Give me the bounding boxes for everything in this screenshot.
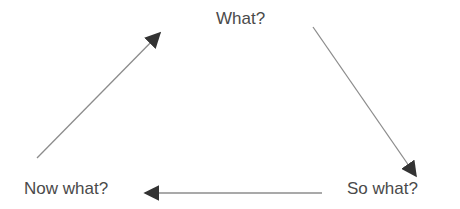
reflection-cycle-diagram: What? So what? Now what? [0,0,460,209]
arrow-line-up-right [37,33,160,158]
node-what-label: What? [216,10,265,27]
node-now-what-label: Now what? [24,180,108,197]
edge-what-to-so-what [313,27,416,176]
edge-now-what-to-what [37,33,160,158]
arrow-line-down-right [313,27,416,176]
arrows-layer [0,0,460,209]
node-so-what-label: So what? [347,180,418,197]
